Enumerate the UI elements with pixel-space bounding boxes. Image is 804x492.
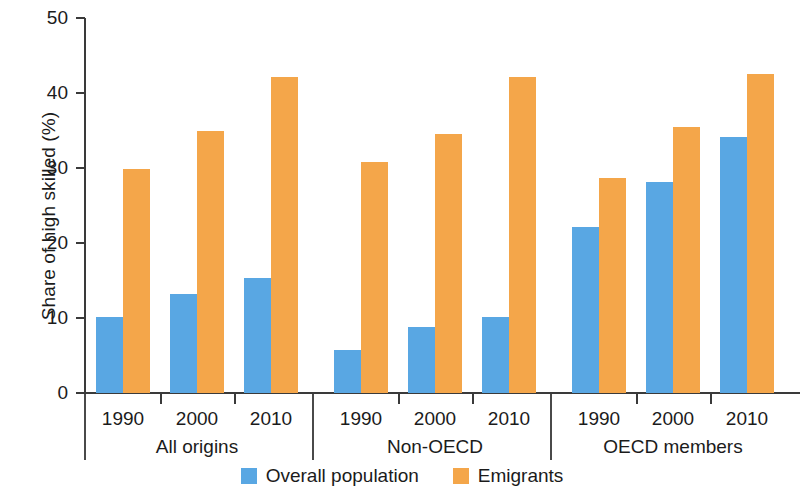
legend-item-emigrants: Emigrants <box>453 466 564 485</box>
bar-overall-population <box>720 137 747 394</box>
y-axis-tick-label: 40 <box>0 83 68 102</box>
x-axis-tick <box>398 394 400 404</box>
group-separator <box>312 394 314 460</box>
x-axis-year-label: 2010 <box>231 408 311 430</box>
x-axis-year-label: 1990 <box>83 408 163 430</box>
bar-overall-population <box>572 227 599 394</box>
x-axis-tick <box>710 394 712 404</box>
chart-legend: Overall population Emigrants <box>0 466 804 485</box>
bar-overall-population <box>408 327 435 393</box>
y-axis-tick-label: 20 <box>0 233 68 252</box>
bar-emigrants <box>271 77 298 394</box>
bar-emigrants <box>197 131 224 394</box>
group-separator <box>84 394 86 460</box>
bar-emigrants <box>509 77 536 393</box>
legend-swatch-icon-overall-population <box>241 468 257 484</box>
bar-emigrants <box>599 178 626 393</box>
x-axis-year-label: 2000 <box>157 408 237 430</box>
x-axis-year-label: 1990 <box>559 408 639 430</box>
bar-overall-population <box>482 317 509 394</box>
x-axis-tick <box>160 394 162 404</box>
y-axis-tick <box>76 242 85 244</box>
bar-chart: Share of high skilled (%) 01020304050 19… <box>0 0 804 492</box>
x-axis-tick <box>636 394 638 404</box>
bar-emigrants <box>673 127 700 393</box>
bar-overall-population <box>170 294 197 393</box>
bar-overall-population <box>96 317 123 393</box>
bar-emigrants <box>747 74 774 393</box>
bar-overall-population <box>646 182 673 393</box>
bar-overall-population <box>334 350 361 394</box>
y-axis-tick-label: 0 <box>0 383 68 402</box>
bar-emigrants <box>123 169 150 393</box>
plot-area <box>86 18 800 393</box>
legend-label-overall-population: Overall population <box>266 466 419 485</box>
group-separator <box>550 394 552 460</box>
x-axis-year-label: 2010 <box>707 408 787 430</box>
x-axis-tick <box>234 394 236 404</box>
x-axis-year-label: 2000 <box>633 408 713 430</box>
x-axis-group-label: All origins <box>77 436 317 458</box>
legend-label-emigrants: Emigrants <box>478 466 564 485</box>
x-axis-year-label: 2010 <box>469 408 549 430</box>
y-axis-tick <box>76 167 85 169</box>
y-axis-tick-label: 50 <box>0 8 68 27</box>
x-axis-group-label: Non-OECD <box>315 436 555 458</box>
y-axis-tick <box>76 92 85 94</box>
y-axis-tick <box>76 317 85 319</box>
x-axis-group-label: OECD members <box>553 436 793 458</box>
bar-overall-population <box>244 278 271 393</box>
bar-emigrants <box>435 134 462 393</box>
y-axis-tick-label: 30 <box>0 158 68 177</box>
y-axis-tick-label: 10 <box>0 308 68 327</box>
y-axis-tick <box>76 17 85 19</box>
x-axis-year-label: 2000 <box>395 408 475 430</box>
bar-emigrants <box>361 162 388 393</box>
x-axis-year-label: 1990 <box>321 408 401 430</box>
legend-swatch-icon-emigrants <box>453 468 469 484</box>
legend-item-overall-population: Overall population <box>241 466 419 485</box>
x-axis-tick <box>472 394 474 404</box>
